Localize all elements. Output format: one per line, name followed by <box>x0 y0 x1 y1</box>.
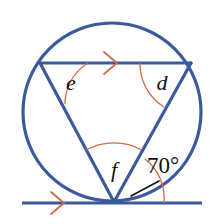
left-side-line <box>40 63 114 202</box>
angle-label-70-degrees: 70° <box>147 153 179 178</box>
angle-label-e: e <box>66 70 76 95</box>
right-side-line <box>114 63 191 202</box>
angle-label-f: f <box>111 157 120 182</box>
geometry-figure: e d f 70° <box>0 0 214 224</box>
angle-arc-f <box>86 143 142 150</box>
angle-label-d: d <box>157 70 169 95</box>
geometry-canvas: e d f 70° <box>0 0 214 224</box>
